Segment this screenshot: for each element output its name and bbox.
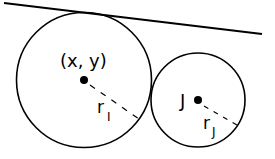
center-point-i xyxy=(80,76,88,84)
radius-label-i-subscript: I xyxy=(107,110,111,124)
center-label-i: (x, y) xyxy=(60,50,107,71)
radius-label-i: r xyxy=(97,97,104,117)
tangent-line xyxy=(4,3,262,34)
radius-label-j-subscript: J xyxy=(211,125,216,139)
center-label-j: J xyxy=(179,90,185,111)
tangent-circles-diagram: (x, y) r I J r J xyxy=(0,0,275,159)
radius-label-j: r xyxy=(203,113,210,133)
center-point-j xyxy=(194,96,202,104)
